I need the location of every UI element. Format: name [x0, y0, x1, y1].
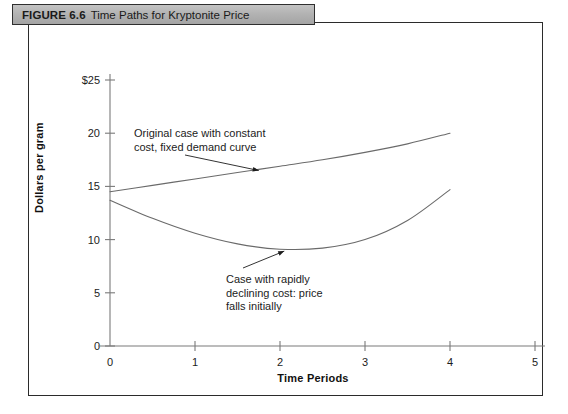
figure-number: FIGURE 6.6 [22, 9, 86, 21]
x-axis-tick-label: 4 [447, 356, 453, 368]
figure-header-bar: FIGURE 6.6 Time Paths for Kryptonite Pri… [12, 4, 315, 25]
x-axis-tick-label: 3 [362, 356, 368, 368]
y-axis-title: Dollars per gram [33, 122, 45, 213]
y-axis-tick-label: 5 [62, 287, 100, 299]
y-axis-tick-label: $25 [62, 74, 100, 86]
x-axis-tick-label: 0 [107, 356, 113, 368]
y-axis-tick-label: 20 [62, 127, 100, 139]
x-axis-title: Time Periods [277, 372, 348, 384]
y-axis-tick-label: 15 [62, 180, 100, 192]
y-axis-tick-label: 0 [62, 340, 100, 352]
figure-title: Time Paths for Kryptonite Price [91, 9, 250, 21]
annotation-original-case: Original case with constant cost, fixed … [134, 127, 265, 154]
annotation-declining-cost: Case with rapidly declining cost: price … [226, 273, 323, 314]
y-axis-tick-label: 10 [62, 234, 100, 246]
x-axis-tick-label: 1 [192, 356, 198, 368]
figure-frame [28, 22, 543, 396]
x-axis-tick-label: 5 [532, 356, 538, 368]
x-axis-tick-label: 2 [277, 356, 283, 368]
